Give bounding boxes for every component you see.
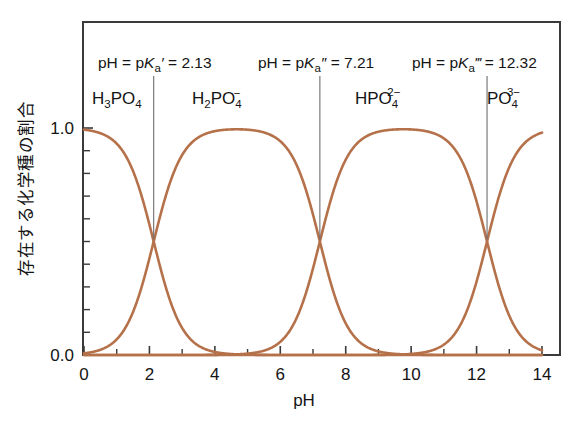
x-tick-label: 14 xyxy=(533,365,552,384)
pka3-k-symbol: K xyxy=(458,54,469,71)
y-tick-label: 0.0 xyxy=(50,346,74,365)
s2-base: H xyxy=(192,89,204,108)
x-tick-label: 0 xyxy=(79,365,88,384)
x-tick-label: 12 xyxy=(467,365,486,384)
s1-mid: PO xyxy=(111,89,136,108)
s1-sub2: 4 xyxy=(135,98,142,110)
pka1-k-symbol: K xyxy=(144,54,155,71)
x-axis-title: pH xyxy=(293,391,315,410)
pka1-value: 2.13 xyxy=(181,54,211,71)
svg-text:H2PO4−: H2PO4− xyxy=(192,87,242,110)
species-label-h2po4-minus: H2PO4− xyxy=(192,87,242,110)
s3-base: H xyxy=(355,89,367,108)
s4-sub2: 4 xyxy=(512,98,519,110)
pka1-equals: = xyxy=(164,54,182,71)
pka3-value: 12.32 xyxy=(498,54,537,71)
y-tick-label: 1.0 xyxy=(50,119,74,138)
s3-charge: 2− xyxy=(387,86,400,98)
species-label-hpo4-2minus: HPO42− xyxy=(355,86,401,110)
s3-sub2: 4 xyxy=(392,98,399,110)
x-tick-label: 10 xyxy=(402,365,421,384)
pka2-k-symbol: K xyxy=(304,54,315,71)
x-tick-label: 8 xyxy=(341,365,350,384)
speciation-chart: 02468101214 0.01.0 pH = pKa′ = 2.13 pH =… xyxy=(0,0,587,432)
y-axis-title: 存在する化学種の割合 xyxy=(17,101,36,276)
s2-charge: − xyxy=(234,87,241,99)
species-label-h3po4: H3PO4 xyxy=(92,89,142,110)
pka3-equals: = xyxy=(480,54,498,71)
s2-sub2: 4 xyxy=(235,98,242,110)
pka2-equals: = xyxy=(326,54,344,71)
x-tick-label: 6 xyxy=(276,365,285,384)
x-tick-label: 4 xyxy=(210,365,219,384)
pka2-prefix: pH = p xyxy=(258,54,304,71)
svg-text:HPO42−: HPO42− xyxy=(355,86,401,110)
s4-charge: 3− xyxy=(507,86,520,98)
pka2-value: 7.21 xyxy=(344,54,374,71)
svg-text:PO43−: PO43− xyxy=(487,86,520,110)
x-tick-label: 2 xyxy=(145,365,154,384)
pka1-prefix: pH = p xyxy=(98,54,144,71)
s2-mid: PO xyxy=(211,89,236,108)
s1-base: H xyxy=(92,89,104,108)
pka3-prefix: pH = p xyxy=(412,54,458,71)
svg-text:H3PO4: H3PO4 xyxy=(92,89,142,110)
species-label-po4-3minus: PO43− xyxy=(487,86,520,110)
